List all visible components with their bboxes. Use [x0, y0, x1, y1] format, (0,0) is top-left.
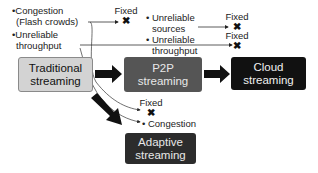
bullet: • [146, 34, 149, 45]
node-label: Adaptive [135, 136, 186, 149]
arrow-p2p-to-cloud [204, 65, 230, 83]
node-adaptive-streaming: Adaptivestreaming [125, 133, 196, 164]
node-label: streaming [138, 75, 189, 88]
node-label: streaming [135, 149, 186, 162]
issue-congestion-flash-crowds: •Congestion (Flash crowds) [12, 6, 78, 27]
node-cloud-streaming: Cloudstreaming [231, 57, 306, 90]
fixed-marker-adaptive: Fixed ✖ [138, 98, 164, 117]
node-label: Cloud [243, 61, 294, 74]
node-label: streaming [243, 74, 294, 87]
node-label: Traditional [29, 62, 82, 75]
issue-line: Unreliable [15, 29, 58, 40]
issue-unreliable-throughput: •Unreliable throughput [12, 30, 61, 51]
issue-line: (Flash crowds) [12, 17, 78, 28]
node-label: streaming [29, 75, 82, 88]
cross-icon: ✖ [223, 41, 251, 50]
bullet: • [142, 118, 145, 129]
cross-icon: ✖ [138, 108, 164, 117]
node-label: P2P [138, 62, 189, 75]
issue-line: Unreliable [152, 34, 195, 45]
issue-p2p-unreliable-throughput: • Unreliable throughput [146, 35, 197, 56]
bullet: • [146, 12, 149, 23]
issue-line: Congestion [15, 5, 63, 16]
cross-icon: ✖ [113, 16, 139, 25]
node-traditional-streaming: Traditionalstreaming [18, 57, 93, 92]
arrow-traditional-to-p2p [95, 65, 122, 83]
fixed-marker-congestion: Fixed ✖ [113, 6, 139, 25]
issue-unreliable-sources: • Unreliable sources [146, 13, 195, 34]
issue-line: throughput [12, 41, 61, 52]
fixed-marker-sources: Fixed ✖ [223, 12, 251, 31]
issue-adaptive-congestion: • Congestion [142, 119, 196, 130]
issue-line: Congestion [148, 118, 196, 129]
fixed-marker-throughput: Fixed ✖ [223, 31, 251, 50]
issue-line: throughput [146, 46, 197, 57]
node-p2p-streaming: P2Pstreaming [124, 57, 202, 92]
arrow-traditional-to-adaptive [91, 93, 122, 125]
issue-line: Unreliable [152, 12, 195, 23]
issue-line: sources [146, 24, 195, 35]
